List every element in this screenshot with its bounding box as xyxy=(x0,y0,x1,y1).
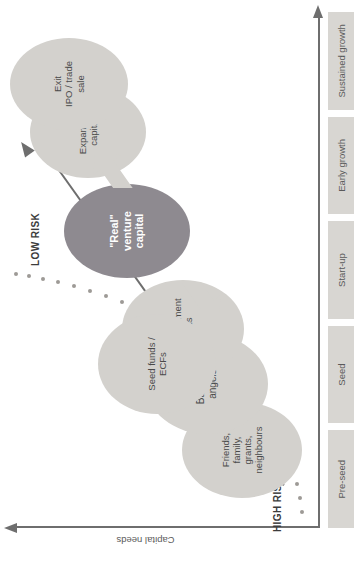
bubble-line: sale xyxy=(75,59,86,109)
low-risk-label: LOW RISK xyxy=(30,213,41,266)
bubble-line: Exit xyxy=(52,59,63,109)
y-axis-label: Capital needs xyxy=(106,535,186,546)
stage-chip-label: Pre-seed xyxy=(336,460,347,499)
arrow-down-icon xyxy=(176,282,234,316)
stage-chip-start-up[interactable]: Start-up xyxy=(328,221,354,319)
bubble-seed-funds-ecfs[interactable]: Seed funds / ECFs xyxy=(98,314,216,414)
arrow-up-icon xyxy=(84,154,142,188)
bubble-line: grants, xyxy=(242,425,253,476)
stage-chip-label: Seed xyxy=(336,364,347,386)
stage-chip-pre-seed[interactable]: Pre-seed xyxy=(328,430,354,528)
bubble-line: family, xyxy=(231,425,242,476)
stage-chip-seed[interactable]: Seed xyxy=(328,326,354,424)
bubble-real-venture-capital[interactable]: "Real" venture capital xyxy=(64,184,190,278)
diagram-stage: Capital needs Maturity / Time xyxy=(0,0,360,574)
bubble-line: "Real" xyxy=(108,209,121,253)
stage-chip-label: Early growth xyxy=(336,139,347,192)
bubble-line: capital xyxy=(133,209,146,253)
diagram-canvas: Capital needs Maturity / Time xyxy=(0,0,360,574)
stage-chip-label: Sustained growth xyxy=(336,24,347,97)
bubble-line: ECFs xyxy=(157,335,168,392)
x-axis-line xyxy=(318,16,320,528)
stage-chip-row: Pre-seed Seed Start-up Early growth Sust… xyxy=(328,12,354,528)
x-axis-arrowhead xyxy=(313,5,323,18)
bubble-line: neighbours xyxy=(253,425,264,476)
stage-chip-label: Start-up xyxy=(336,253,347,287)
bubble-line: venture xyxy=(121,209,134,253)
bubble-exit-ipo-trade-sale[interactable]: Exit IPO / trade sale xyxy=(10,38,128,130)
stage-chip-early-growth[interactable]: Early growth xyxy=(328,117,354,215)
stage-chip-sustained-growth[interactable]: Sustained growth xyxy=(328,12,354,110)
bubble-line: Seed funds / xyxy=(146,335,157,392)
bubble-line: IPO / trade xyxy=(63,59,74,109)
y-axis-arrowhead xyxy=(4,523,17,533)
